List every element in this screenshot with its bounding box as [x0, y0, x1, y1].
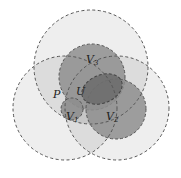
set-diagram: V3 P U V1 V2: [0, 0, 181, 178]
label-u: U: [76, 85, 86, 98]
label-p: P: [52, 88, 61, 101]
